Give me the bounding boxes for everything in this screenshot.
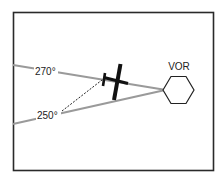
vor-radial-diagram: 270° 250° VOR [0,0,221,177]
radial-250-label: 250° [37,110,58,121]
radial-270-label: 270° [35,66,56,77]
vor-label: VOR [168,61,190,72]
